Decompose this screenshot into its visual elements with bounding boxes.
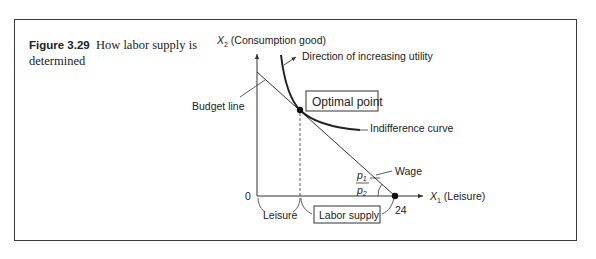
- labor-supply-label: Labor supply: [319, 209, 380, 221]
- optimal-point-marker: [297, 107, 303, 113]
- budget-line-leader: [240, 80, 265, 97]
- slope-numerator: p1: [356, 169, 367, 182]
- wage-angle-arc: [378, 184, 382, 196]
- budget-line-label: Budget line: [192, 100, 245, 112]
- y-axis-label: X2 (Consumption good): [216, 34, 326, 48]
- x-max-tick-label: 24: [395, 204, 407, 216]
- wage-label: Wage: [395, 165, 422, 177]
- slope-denominator: p2: [356, 184, 367, 197]
- utility-direction-label: Direction of increasing utility: [302, 50, 433, 62]
- indifference-curve-label: Indifference curve: [370, 122, 453, 134]
- leisure-label: Leisure: [263, 209, 298, 221]
- origin-label: 0: [245, 190, 251, 202]
- x-axis-label: X1 (Leisure): [429, 190, 485, 204]
- labor-supply-diagram: X2 (Consumption good) X1 (Leisure) 0 Bud…: [0, 0, 596, 259]
- endowment-point-marker: [392, 193, 398, 199]
- wage-leader: [376, 171, 392, 175]
- optimal-point-label: Optimal point: [312, 95, 383, 109]
- utility-direction-arrow: [284, 57, 296, 65]
